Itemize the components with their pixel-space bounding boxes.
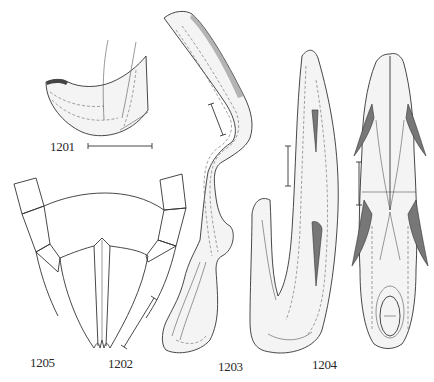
figure-1202-drawing (162, 11, 252, 352)
figure-label-1201: 1201 (50, 140, 75, 153)
figure-1204-drawing (352, 53, 428, 348)
figure-label-1205: 1205 (30, 356, 55, 369)
figure-plate: 1201 1202 1203 1204 1205 (0, 0, 434, 382)
figure-1205-drawing (14, 174, 186, 349)
illustration-drawings (0, 0, 434, 382)
figure-label-1203: 1203 (218, 360, 243, 373)
figure-1201-drawing (46, 40, 152, 149)
figure-label-1204: 1204 (312, 358, 337, 371)
figure-1203-drawing (250, 50, 338, 353)
figure-label-1202: 1202 (108, 357, 133, 370)
